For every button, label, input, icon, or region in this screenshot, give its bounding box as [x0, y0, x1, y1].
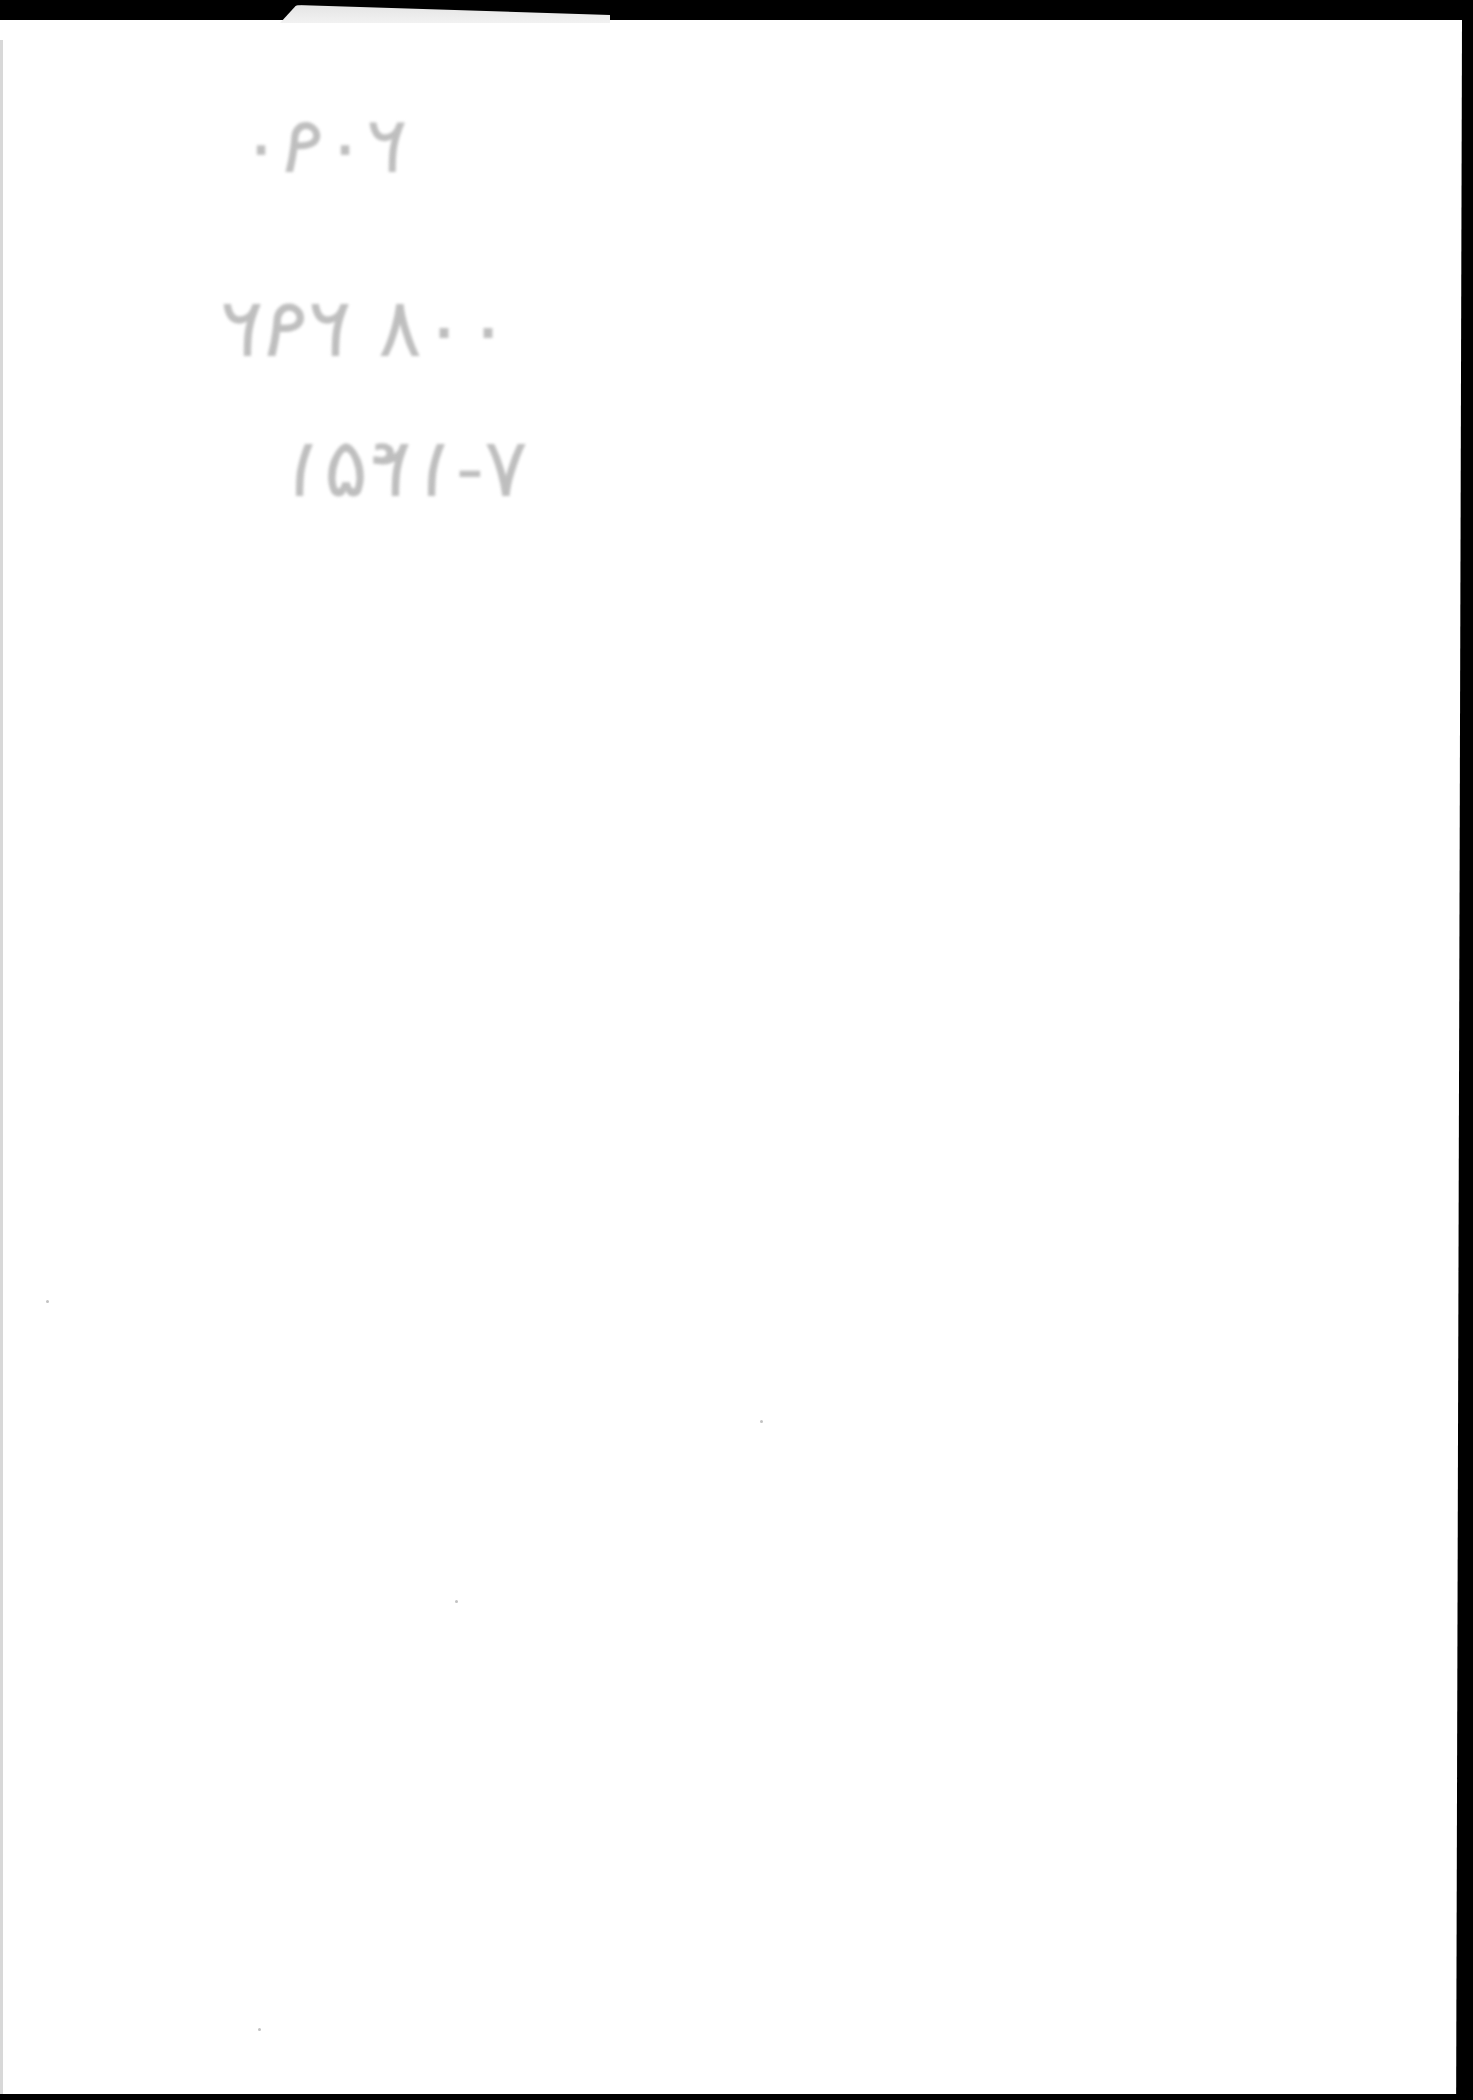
paper-left-edge	[0, 40, 3, 2100]
dust-speck	[455, 1600, 458, 1603]
paper-sheet: ۲۰۹۰ ۲۹۲ ۰۰۸ ۷-۱۴۵۱	[0, 20, 1462, 2094]
dust-speck	[760, 1420, 763, 1423]
handwriting-line-2: ۲۹۲ ۰۰۸	[220, 280, 510, 375]
handwriting-line-1: ۲۰۹۰	[240, 100, 408, 190]
dust-speck	[46, 1300, 49, 1303]
handwriting-bleed-through: ۲۰۹۰ ۲۹۲ ۰۰۸ ۷-۱۴۵۱	[220, 90, 640, 570]
dust-speck	[258, 2028, 261, 2031]
scanner-top-border	[0, 0, 1473, 22]
handwriting-line-3: ۷-۱۴۵۱	[280, 420, 528, 515]
